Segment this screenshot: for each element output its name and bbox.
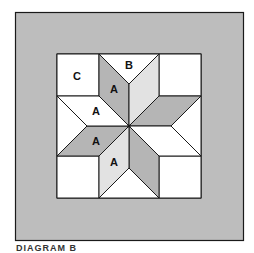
corner-square-bottom-left — [57, 156, 99, 198]
label-c: C — [73, 70, 81, 82]
label-a-4: A — [110, 156, 118, 168]
label-b: B — [125, 59, 133, 71]
label-a-2: A — [92, 105, 100, 117]
corner-square-top-right — [159, 54, 201, 96]
label-a-3: A — [92, 135, 100, 147]
center-point — [127, 124, 130, 127]
diagram-caption: DIAGRAM B — [16, 244, 77, 253]
label-a-1: A — [110, 83, 118, 95]
corner-square-bottom-right — [159, 156, 201, 198]
